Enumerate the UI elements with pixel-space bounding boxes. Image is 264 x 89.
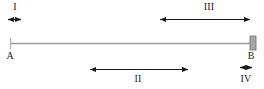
point-label-a: A [2,51,18,61]
interval-diagram-figure: I III II IV A B [0,0,264,89]
rod-group [10,36,256,50]
point-label-b: B [243,51,259,61]
end-block-rect [250,36,256,50]
interval-label-III: III [193,2,225,12]
interval-label-II: II [124,74,152,84]
interval-label-I: I [4,2,26,12]
interval-label-IV: IV [232,74,260,84]
